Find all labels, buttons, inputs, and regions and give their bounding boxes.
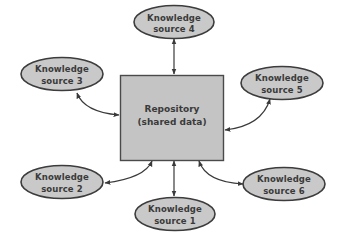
knowledge-source-5: Knowledge source 5 (241, 67, 323, 100)
knowledge-source-5-line2: source 5 (261, 85, 303, 95)
repository-node: Repository (shared data) (121, 76, 224, 161)
knowledge-source-1: Knowledge source 1 (135, 198, 215, 231)
repository-label-line1: Repository (145, 104, 200, 114)
connector-ks6 (199, 161, 243, 184)
knowledge-source-2: Knowledge source 2 (21, 166, 103, 199)
knowledge-source-3-line2: source 3 (41, 76, 83, 86)
knowledge-source-2-line2: source 2 (41, 184, 83, 194)
knowledge-source-4-line1: Knowledge (147, 13, 201, 23)
knowledge-source-3-line1: Knowledge (35, 64, 89, 74)
connector-ks5 (225, 99, 270, 130)
knowledge-source-6-line2: source 6 (263, 186, 305, 196)
knowledge-source-4: Knowledge source 4 (134, 6, 214, 39)
knowledge-source-2-line1: Knowledge (35, 172, 89, 182)
knowledge-source-4-line2: source 4 (153, 24, 195, 34)
connector-ks2 (105, 161, 152, 183)
knowledge-source-6-line1: Knowledge (257, 174, 311, 184)
knowledge-source-3: Knowledge source 3 (21, 58, 103, 91)
knowledge-source-1-line1: Knowledge (148, 204, 202, 214)
blackboard-diagram: Repository (shared data) Knowledge sourc… (0, 0, 344, 239)
knowledge-source-5-line1: Knowledge (255, 73, 309, 83)
connector-ks3 (77, 93, 119, 115)
knowledge-source-6: Knowledge source 6 (243, 168, 325, 201)
knowledge-source-1-line2: source 1 (154, 216, 196, 226)
repository-label-line2: (shared data) (137, 117, 206, 127)
